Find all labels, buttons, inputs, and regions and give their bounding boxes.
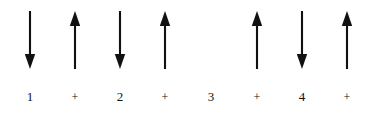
arrow-up-icon xyxy=(142,10,188,72)
beat-column-5: 3 xyxy=(188,0,234,116)
arrow-down-icon xyxy=(279,10,325,72)
beat-column-6: + xyxy=(234,0,280,116)
beat-column-2: + xyxy=(52,0,98,116)
arrow-up-icon xyxy=(234,10,280,72)
beat-label-4: + xyxy=(142,86,188,108)
beat-column-1: 1 xyxy=(7,0,53,116)
beat-column-4: + xyxy=(142,0,188,116)
beat-label-3: 2 xyxy=(97,86,143,108)
beat-label-2: + xyxy=(52,86,98,108)
beat-column-7: 4 xyxy=(279,0,325,116)
strum-pattern-diagram: 1+2+3+4+ xyxy=(0,0,372,116)
arrow-up-icon xyxy=(52,10,98,72)
arrow-up-icon xyxy=(324,10,370,72)
beat-label-7: 4 xyxy=(279,86,325,108)
beat-label-5: 3 xyxy=(188,86,234,108)
beat-label-6: + xyxy=(234,86,280,108)
arrow-down-icon xyxy=(97,10,143,72)
beat-label-8: + xyxy=(324,86,370,108)
beat-column-3: 2 xyxy=(97,0,143,116)
beat-column-8: + xyxy=(324,0,370,116)
arrow-down-icon xyxy=(7,10,53,72)
beat-label-1: 1 xyxy=(7,86,53,108)
